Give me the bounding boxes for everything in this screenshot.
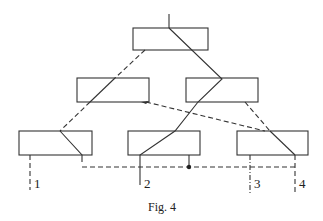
dashed-top-to-mid-left [115, 50, 145, 78]
box-bottom-middle [128, 131, 200, 155]
output-label-1: 1 [34, 176, 41, 191]
box-bottom-left [19, 131, 92, 155]
box-top [133, 28, 208, 50]
solid-through-bottom-left [60, 131, 82, 162]
solid-through-bottom-right [270, 131, 295, 155]
box-mid-right [186, 78, 258, 102]
tree-diagram: 1 2 3 4 Fig. 4 [0, 0, 323, 221]
dashed-mid-left-to-bottom-left [60, 102, 90, 131]
output-label-2: 2 [144, 176, 151, 191]
box-bottom-right [237, 131, 308, 155]
box-mid-left [77, 78, 149, 102]
output-label-3: 3 [254, 176, 261, 191]
figure-caption: Fig. 4 [148, 200, 176, 214]
dashed-mid-left-to-bottom-right [146, 102, 265, 131]
junction-dot [187, 165, 191, 169]
solid-through-mid-left [90, 78, 115, 102]
output-label-4: 4 [299, 176, 306, 191]
solid-path-to-2 [140, 28, 222, 185]
